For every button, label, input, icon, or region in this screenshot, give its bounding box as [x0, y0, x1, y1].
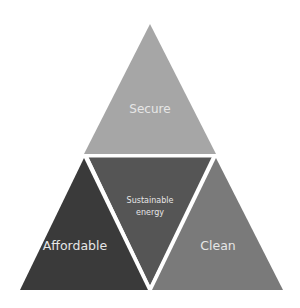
label-energy: energy	[136, 208, 164, 218]
label-affordable: Affordable	[43, 238, 107, 253]
pyramid-diagram	[0, 0, 300, 308]
label-secure: Secure	[129, 102, 170, 116]
segment-secure	[84, 24, 216, 154]
label-clean: Clean	[200, 238, 235, 253]
label-sustainable: Sustainable	[127, 196, 174, 206]
